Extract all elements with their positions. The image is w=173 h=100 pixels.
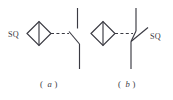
panel-a-sq-label: SQ — [8, 30, 19, 39]
figure-container: SQ ( a ) — [0, 0, 173, 100]
schematic-svg: SQ ( a ) — [0, 0, 173, 100]
panel-b-caption-open-paren: ( — [118, 79, 121, 89]
panel-b-sq-label: SQ — [150, 32, 161, 41]
panel-b-caption: ( b ) — [118, 79, 136, 89]
panel-a-caption-letter: a — [48, 79, 52, 89]
panel-a-caption-open-paren: ( — [40, 79, 43, 89]
panel-a-caption-close-paren: ) — [55, 79, 58, 89]
panel-a-actuator-diamond — [27, 22, 51, 46]
panel-a-caption: ( a ) — [40, 79, 58, 89]
panel-a: SQ ( a ) — [8, 8, 80, 89]
panel-b: SQ ( b ) — [91, 8, 161, 89]
panel-b-actuator-diamond — [91, 22, 115, 46]
panel-a-switch-contact — [69, 8, 80, 69]
panel-b-switch-contact — [131, 8, 148, 69]
panel-b-caption-close-paren: ) — [133, 79, 136, 89]
panel-b-caption-letter: b — [126, 79, 131, 89]
